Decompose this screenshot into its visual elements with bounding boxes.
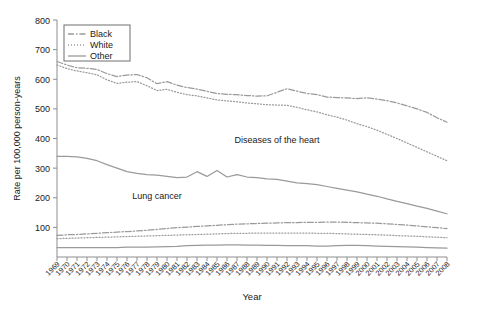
legend-label-black[interactable]: Black [90,29,113,39]
line-chart: 100200300400500600700800 196919701971197… [0,0,483,318]
chart-figure: 100200300400500600700800 196919701971197… [0,0,483,318]
y-tick-label: 600 [35,75,50,85]
y-axis-title-text: Rate per 100,000 person-years [12,76,22,201]
y-tick-label: 300 [35,164,50,174]
legend-label-white[interactable]: White [90,40,113,50]
y-tick-label: 700 [35,45,50,55]
annotation-label-0: Diseases of the heart [234,135,320,145]
x-axis-title-text: Year [242,291,261,302]
legend-label-other[interactable]: Other [90,51,113,61]
y-tick-label: 200 [35,193,50,203]
y-tick-label: 500 [35,104,50,114]
y-tick-label: 800 [35,16,50,26]
y-tick-label: 100 [35,223,50,233]
annotation-label-1: Lung cancer [132,191,182,201]
y-tick-label: 400 [35,134,50,144]
chart-legend[interactable]: BlackWhiteOther [64,25,130,61]
